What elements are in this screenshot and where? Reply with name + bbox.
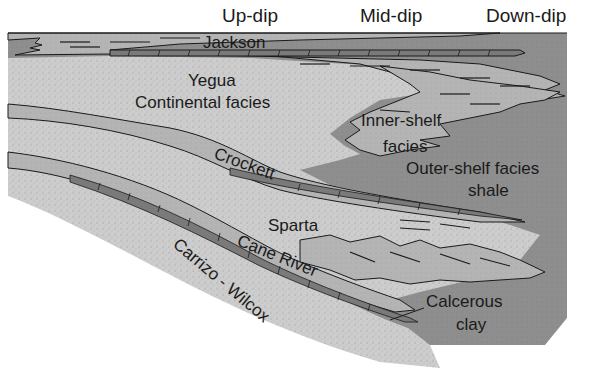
label-clay: clay (456, 315, 487, 334)
label-sparta: Sparta (268, 216, 319, 235)
header-mid-dip: Mid-dip (360, 5, 422, 26)
label-yegua: Yegua (188, 71, 236, 90)
label-jackson: Jackson (203, 33, 265, 52)
label-inner-shelf-facies: facies (383, 137, 427, 156)
label-continental-facies: Continental facies (135, 93, 270, 112)
label-shale: shale (468, 181, 509, 200)
label-outer-shelf-facies: Outer-shelf facies (406, 159, 539, 178)
header-up-dip: Up-dip (222, 5, 278, 26)
label-inner-shelf: Inner-shelf (361, 111, 442, 130)
header-down-dip: Down-dip (486, 5, 566, 26)
cross-section-canvas: Up-dip Mid-dip Down-dip Jackson Yegua Co… (0, 0, 597, 376)
jackson-clay-band (110, 50, 525, 56)
cross-section-diagram: Up-dip Mid-dip Down-dip Jackson Yegua Co… (0, 0, 597, 376)
label-calcareous: Calcerous (426, 292, 503, 311)
